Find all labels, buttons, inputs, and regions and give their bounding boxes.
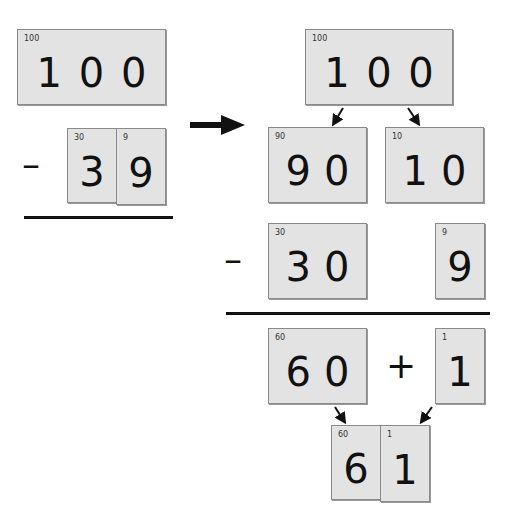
arrow-icon: [422, 407, 432, 421]
arrow-icon: [335, 407, 344, 421]
arrow-icon: [334, 108, 343, 123]
big-right-arrow-icon: [190, 115, 245, 135]
arrow-icon: [408, 108, 418, 123]
arrows-layer: [0, 0, 510, 523]
